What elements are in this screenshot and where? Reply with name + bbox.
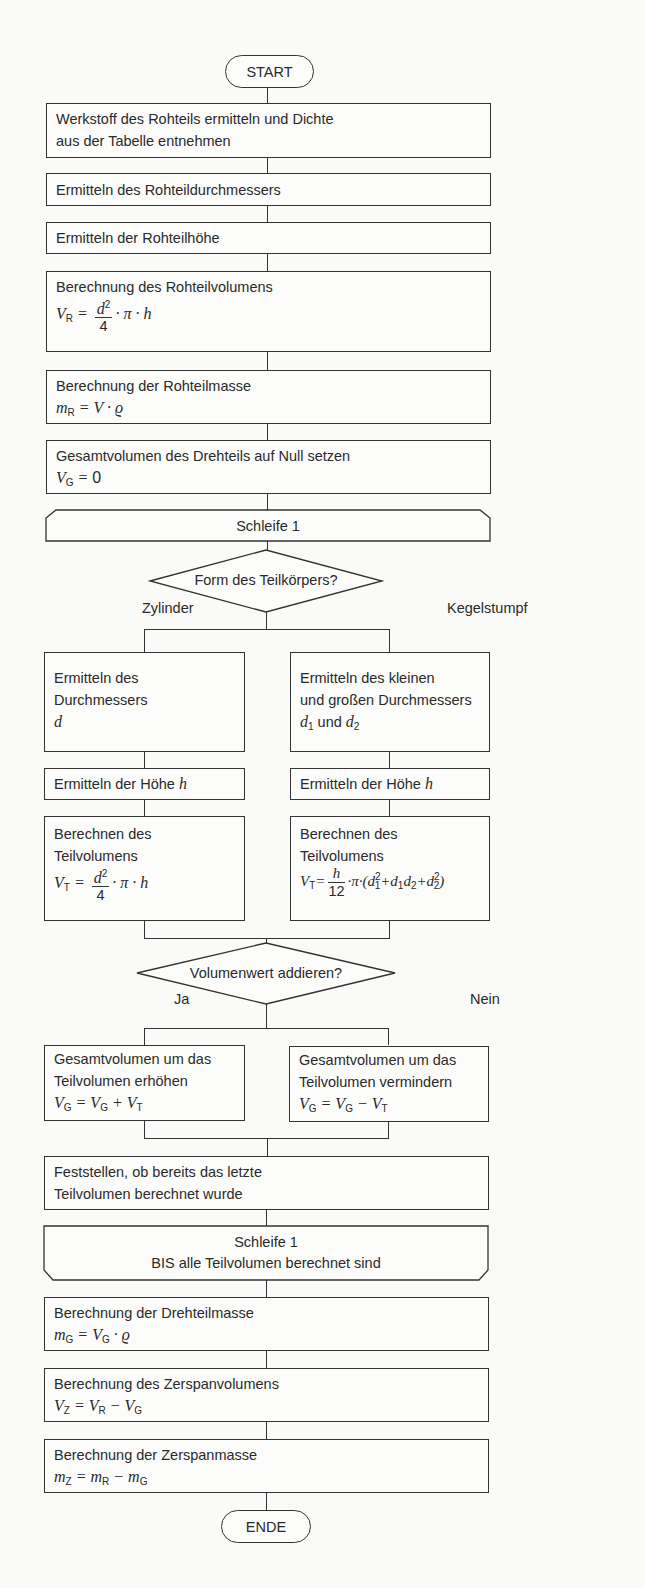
formula-cylinder-volume: VT = d24· π · h	[54, 865, 235, 904]
step-text: Berechnung der Rohteilmasse	[56, 375, 481, 397]
connector	[389, 800, 390, 816]
connector	[389, 920, 390, 938]
step-text: Feststellen, ob bereits das letzte	[54, 1161, 479, 1183]
step-text: Durchmessers	[54, 689, 235, 711]
und-text: und	[318, 714, 342, 730]
connector	[267, 494, 268, 510]
connector	[266, 612, 267, 629]
formula-raw-mass: mR = V · ϱ	[56, 397, 481, 421]
connector	[266, 1351, 267, 1368]
step-frustum-height: Ermitteln der Höhe h	[290, 768, 490, 800]
formula-reset: VG = 0	[56, 467, 481, 491]
connector	[266, 1280, 267, 1297]
step-text: aus der Tabelle entnehmen	[56, 130, 481, 152]
end-terminal: ENDE	[221, 1510, 311, 1543]
branch-label-zylinder: Zylinder	[142, 600, 194, 616]
step-text: Ermitteln des kleinen	[300, 667, 480, 689]
step-increase-volume: Gesamtvolumen um das Teilvolumen erhöhen…	[44, 1045, 245, 1121]
step-text: Gesamtvolumen um das	[299, 1049, 479, 1071]
connector	[389, 629, 390, 652]
step-raw-diameter: Ermitteln des Rohteildurchmessers	[46, 173, 491, 206]
step-text: Berechnung der Drehteilmasse	[54, 1302, 479, 1324]
branch-label-kegelstumpf: Kegelstumpf	[447, 600, 528, 616]
step-text: Teilvolumen erhöhen	[54, 1070, 235, 1092]
step-text: Teilvolumens	[54, 845, 235, 867]
connector	[144, 629, 145, 652]
connector	[267, 157, 268, 173]
loop-start-label: Schleife 1	[46, 516, 490, 536]
start-label: START	[246, 64, 292, 80]
connector	[266, 1422, 267, 1439]
branch-label-nein: Nein	[470, 991, 500, 1007]
step-text: Ermitteln des	[54, 667, 235, 689]
connector	[389, 752, 390, 768]
step-decrease-volume: Gesamtvolumen um das Teilvolumen vermind…	[289, 1046, 489, 1122]
step-text: Ermitteln der Höhe	[300, 776, 421, 792]
connector	[267, 352, 268, 370]
step-text: Berechnung des Rohteilvolumens	[56, 276, 481, 298]
step-raw-volume: Berechnung des Rohteilvolumens VR = d24·…	[46, 271, 491, 352]
step-text: Teilvolumens	[300, 845, 487, 867]
end-label: ENDE	[246, 1519, 286, 1535]
step-text: Berechnung des Zerspanvolumens	[54, 1373, 479, 1395]
connector	[267, 541, 268, 551]
connector	[267, 423, 268, 440]
connector	[266, 938, 267, 943]
formula-decrease: VG = VG − VT	[299, 1093, 479, 1117]
step-cylinder-diameter: Ermitteln des Durchmessers d	[44, 652, 245, 752]
loop-end-label: Schleife 1 BIS alle Teilvolumen berechne…	[44, 1232, 488, 1274]
formula-increase: VG = VG + VT	[54, 1092, 235, 1116]
step-text: Ermitteln der Höhe	[54, 776, 175, 792]
formula-chip-volume: VZ = VR − VG	[54, 1395, 479, 1419]
connector	[266, 1492, 267, 1510]
step-text: Ermitteln des Rohteildurchmessers	[56, 179, 481, 201]
connector	[144, 799, 145, 816]
step-chip-volume: Berechnung des Zerspanvolumens VZ = VR −…	[44, 1368, 489, 1422]
step-reset-total-volume: Gesamtvolumen des Drehteils auf Null set…	[46, 440, 491, 494]
variables-d1-d2: d1 und d2	[300, 711, 480, 735]
step-text: Werkstoff des Rohteils ermitteln und Dic…	[56, 108, 481, 130]
start-terminal: START	[225, 55, 314, 88]
step-chip-mass: Berechnung der Zerspanmasse mZ = mR − mG	[44, 1439, 489, 1493]
step-text: Berechnen des	[54, 823, 235, 845]
step-text: Gesamtvolumen des Drehteils auf Null set…	[56, 445, 481, 467]
connector	[267, 88, 268, 103]
merge-line	[144, 938, 390, 939]
connector	[144, 1028, 145, 1045]
connector	[267, 1138, 268, 1156]
step-text: Berechnung der Zerspanmasse	[54, 1444, 479, 1466]
split-line	[144, 1028, 389, 1029]
step-text: Teilvolumen vermindern	[299, 1071, 479, 1093]
step-text: Berechnen des	[300, 823, 487, 845]
connector	[144, 751, 145, 768]
decision1-question: Form des Teilkörpers?	[150, 572, 382, 588]
step-cylinder-volume: Berechnen des Teilvolumens VT = d24· π ·…	[44, 816, 245, 921]
loop-end-line2: BIS alle Teilvolumen berechnet sind	[44, 1253, 488, 1274]
formula-chip-mass: mZ = mR − mG	[54, 1466, 479, 1490]
step-cylinder-height: Ermitteln der Höhe h	[44, 768, 245, 800]
step-text: Ermitteln der Rohteilhöhe	[56, 227, 481, 249]
formula-frustum-volume: VT=h12·π·(d21+d1d2+d22)	[300, 865, 487, 900]
formula-part-mass: mG = VG · ϱ	[54, 1324, 479, 1348]
connector	[266, 1209, 267, 1226]
step-raw-height: Ermitteln der Rohteilhöhe	[46, 222, 491, 254]
step-text: Gesamtvolumen um das	[54, 1048, 235, 1070]
connector	[267, 254, 268, 271]
connector	[388, 1028, 389, 1045]
connector	[388, 1121, 389, 1138]
decision2-question: Volumenwert addieren?	[137, 965, 395, 981]
loop-end-line1: Schleife 1	[44, 1232, 488, 1253]
split-line	[144, 629, 390, 630]
step-frustum-volume: Berechnen des Teilvolumens VT=h12·π·(d21…	[290, 816, 490, 921]
connector	[267, 206, 268, 222]
variable-h: h	[425, 775, 433, 792]
step-check-last-volume: Feststellen, ob bereits das letzte Teilv…	[44, 1156, 489, 1210]
connector	[144, 1120, 145, 1138]
variable-d: d	[54, 711, 235, 733]
step-raw-mass: Berechnung der Rohteilmasse mR = V · ϱ	[46, 370, 491, 424]
connector	[144, 920, 145, 938]
step-determine-material: Werkstoff des Rohteils ermitteln und Dic…	[46, 103, 491, 158]
step-text: und großen Durchmessers	[300, 689, 480, 711]
variable-h: h	[179, 775, 187, 792]
step-text: Teilvolumen berechnet wurde	[54, 1183, 479, 1205]
